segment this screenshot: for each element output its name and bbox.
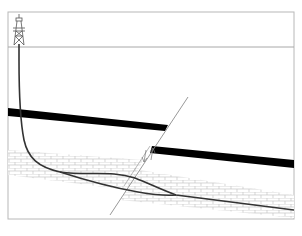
cross-section-diagram <box>0 0 302 236</box>
